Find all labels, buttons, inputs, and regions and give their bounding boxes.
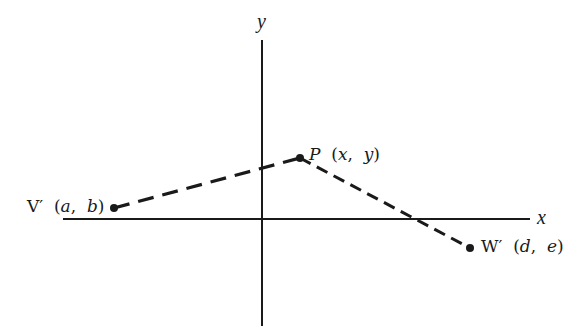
paren-open: (	[54, 196, 61, 216]
y-axis-label: y	[257, 11, 266, 31]
point-p-name: P	[309, 144, 320, 164]
paren-close: )	[373, 144, 380, 164]
coord-d: d	[520, 236, 531, 256]
comma: ,	[71, 196, 76, 216]
segment-p-to-w	[300, 158, 470, 248]
point-p-label: P (x, y)	[309, 146, 380, 163]
coord-a: a	[61, 196, 71, 216]
comma: ,	[531, 236, 536, 256]
x-axis-label: x	[537, 207, 546, 227]
paren-open: (	[513, 236, 520, 256]
point-w	[466, 244, 474, 252]
comma: ,	[348, 144, 353, 164]
coord-x: x	[338, 144, 348, 164]
point-w-label: W′ (d, e)	[481, 238, 564, 255]
point-v-label: V′ (a, b)	[27, 198, 104, 215]
coordinate-diagram: y x V′ (a, b) P (x, y) W′ (d, e)	[0, 0, 587, 336]
coord-y: y	[364, 144, 374, 164]
segment-v-to-p	[114, 158, 300, 208]
point-v-name: V′	[27, 196, 43, 216]
diagram-graphics	[0, 0, 587, 336]
paren-close: )	[557, 236, 564, 256]
point-w-name: W′	[481, 236, 502, 256]
point-p	[296, 154, 304, 162]
coord-e: e	[547, 236, 557, 256]
coord-b: b	[87, 196, 98, 216]
paren-close: )	[98, 196, 105, 216]
paren-open: (	[331, 144, 338, 164]
point-v	[110, 204, 118, 212]
